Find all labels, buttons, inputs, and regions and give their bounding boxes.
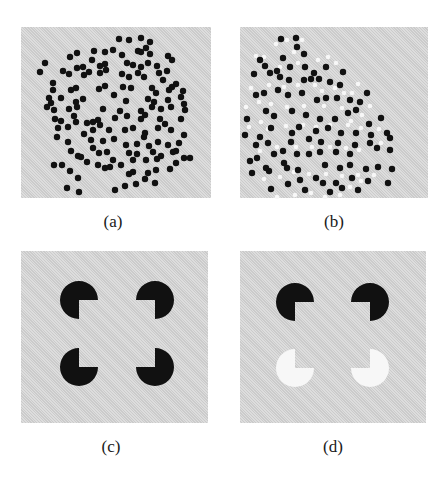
dot (267, 70, 273, 76)
dot (323, 195, 328, 200)
dot (280, 148, 286, 154)
dot (84, 159, 90, 165)
dot (295, 167, 301, 173)
dot (112, 187, 118, 193)
dot (110, 47, 116, 53)
dot (54, 134, 60, 140)
dot (335, 140, 341, 146)
dot (284, 124, 289, 129)
dot (269, 102, 274, 107)
dot (345, 110, 351, 116)
dot (68, 148, 74, 154)
dot (58, 95, 64, 101)
dot (158, 106, 164, 112)
dot (90, 127, 96, 133)
panel-b-dot-field (240, 27, 428, 198)
dot (141, 74, 147, 80)
dot (78, 154, 84, 160)
dot (285, 38, 290, 43)
dot (385, 180, 391, 186)
dot (302, 187, 308, 193)
dot (150, 149, 156, 155)
dot (278, 36, 284, 42)
dot (116, 36, 122, 42)
dot (124, 113, 130, 119)
dot (142, 112, 148, 118)
dot (155, 139, 161, 145)
dot (326, 55, 331, 60)
dot (280, 55, 286, 61)
dot (67, 168, 73, 174)
dot (375, 164, 381, 170)
dot (168, 104, 174, 110)
dot (97, 70, 103, 76)
dot (130, 125, 136, 131)
dot (123, 142, 129, 148)
dot (360, 113, 365, 118)
dot (274, 68, 280, 74)
dot (333, 149, 339, 155)
dot (155, 125, 161, 131)
dot (259, 120, 264, 125)
dot (262, 177, 267, 182)
dot (299, 90, 305, 96)
dot (102, 49, 108, 55)
dot (340, 69, 346, 75)
dot (294, 151, 300, 157)
dot (160, 77, 166, 83)
dot (173, 160, 179, 166)
dot (154, 63, 160, 69)
dot (138, 35, 144, 41)
dot (126, 74, 132, 80)
dot (296, 83, 301, 88)
dot (73, 119, 79, 125)
dot (353, 130, 359, 136)
dot (277, 74, 283, 80)
dot (134, 141, 140, 147)
dot (309, 191, 314, 196)
dot (154, 156, 160, 162)
dot (285, 92, 291, 98)
dot (169, 57, 175, 63)
dot (257, 57, 263, 63)
dot (257, 134, 263, 140)
dot (257, 100, 262, 105)
dot (334, 61, 339, 66)
dot (130, 157, 136, 163)
dot (265, 140, 271, 146)
dot (153, 167, 159, 173)
dot (180, 88, 186, 94)
dot (317, 116, 323, 122)
dot (51, 162, 57, 168)
dot (67, 54, 73, 60)
dot (350, 91, 355, 96)
dot (251, 71, 257, 77)
dot (322, 162, 328, 168)
dot (164, 68, 170, 74)
dot (344, 146, 349, 151)
dot (292, 50, 297, 55)
dot (328, 145, 333, 150)
dot (168, 127, 174, 133)
dot (133, 181, 139, 187)
dot (323, 64, 329, 70)
dot (138, 49, 144, 55)
dot (100, 138, 106, 144)
dot (287, 64, 293, 70)
dot (65, 139, 71, 145)
dot (352, 142, 358, 148)
dot (318, 139, 324, 145)
dot (80, 64, 86, 70)
dot (58, 118, 64, 124)
dot (97, 122, 103, 128)
dot (118, 162, 124, 168)
panel-a-label: (a) (83, 212, 143, 232)
dot (359, 126, 364, 131)
dot (123, 98, 129, 104)
dot (178, 94, 184, 100)
panel-a-dot-field (21, 27, 211, 198)
dot (74, 104, 80, 110)
dot (271, 151, 277, 157)
dot (187, 155, 193, 161)
dot (301, 51, 307, 57)
